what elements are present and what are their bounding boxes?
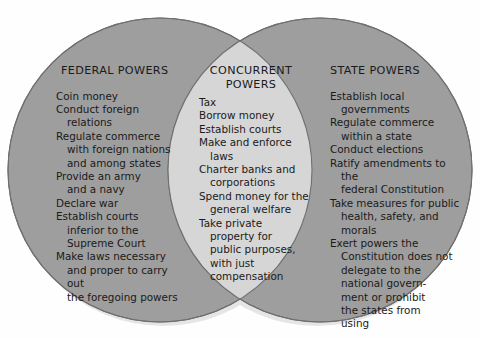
concurrent-powers-list: Tax Borrow money Establish courts Make a… bbox=[192, 96, 310, 284]
list-item: Spend money for the general welfare bbox=[199, 190, 310, 217]
venn-text-layer: FEDERAL POWERS Coin money Conduct foreig… bbox=[0, 0, 480, 338]
list-item: Ratify amendments to the federal Constit… bbox=[330, 157, 464, 197]
list-item: Make and enforce laws bbox=[199, 136, 310, 163]
venn-diagram: FEDERAL POWERS Coin money Conduct foreig… bbox=[0, 0, 480, 338]
list-item: Borrow money bbox=[199, 109, 310, 122]
list-item: Take measures for public health, safety,… bbox=[330, 197, 464, 237]
list-item: Take private property for public purpose… bbox=[199, 217, 310, 284]
concurrent-powers-heading: CONCURRENT POWERS bbox=[192, 64, 310, 91]
list-item: Regulate commerce with foreign nations a… bbox=[56, 130, 188, 170]
list-item: Tax bbox=[199, 96, 310, 109]
list-item: Establish courts bbox=[199, 123, 310, 136]
list-item: Coin money bbox=[56, 90, 188, 103]
list-item: Provide an army and a navy bbox=[56, 170, 188, 197]
list-item: Establish local governments bbox=[330, 90, 464, 117]
list-item: Make laws necessary and proper to carry … bbox=[56, 250, 188, 304]
list-item: Regulate commerce within a state bbox=[330, 116, 464, 143]
list-item: Declare war bbox=[56, 197, 188, 210]
federal-powers-section: FEDERAL POWERS Coin money Conduct foreig… bbox=[56, 64, 188, 304]
state-powers-list: Establish local governments Regulate com… bbox=[330, 90, 464, 331]
list-item: Exert powers the Constitution does not d… bbox=[330, 237, 464, 331]
list-item: Charter banks and corporations bbox=[199, 163, 310, 190]
state-powers-section: STATE POWERS Establish local governments… bbox=[330, 64, 464, 331]
list-item: Conduct elections bbox=[330, 143, 464, 156]
list-item: Establish courts inferior to the Supreme… bbox=[56, 210, 188, 250]
concurrent-powers-section: CONCURRENT POWERS Tax Borrow money Estab… bbox=[192, 64, 310, 284]
list-item: Conduct foreign relations bbox=[56, 103, 188, 130]
federal-powers-heading: FEDERAL POWERS bbox=[61, 64, 188, 78]
state-powers-heading: STATE POWERS bbox=[330, 64, 464, 78]
federal-powers-list: Coin money Conduct foreign relations Reg… bbox=[56, 90, 188, 305]
